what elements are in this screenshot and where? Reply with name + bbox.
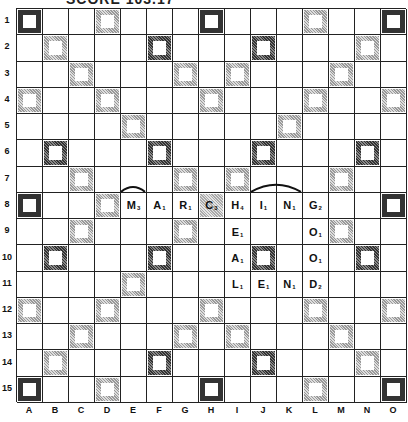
board-cell-N7[interactable]	[355, 167, 381, 193]
board-cell-J2[interactable]	[251, 35, 277, 61]
board-cell-I7[interactable]	[225, 167, 251, 193]
board-cell-I12[interactable]	[225, 298, 251, 324]
board-cell-L15[interactable]	[303, 377, 329, 403]
board-cell-C12[interactable]	[69, 298, 95, 324]
board-cell-H10[interactable]	[199, 245, 225, 271]
board-cell-M9[interactable]	[329, 219, 355, 245]
board-cell-I8[interactable]: H4	[225, 193, 251, 219]
board-cell-O1[interactable]	[381, 9, 407, 35]
board-cell-I6[interactable]	[225, 140, 251, 166]
board-cell-G6[interactable]	[173, 140, 199, 166]
board-cell-B3[interactable]	[43, 62, 69, 88]
board-cell-A14[interactable]	[17, 350, 43, 376]
board-cell-H6[interactable]	[199, 140, 225, 166]
board-cell-K3[interactable]	[277, 62, 303, 88]
board-cell-J8[interactable]: I1	[251, 193, 277, 219]
board-cell-C10[interactable]	[69, 245, 95, 271]
board-cell-F11[interactable]	[147, 272, 173, 298]
board-cell-C4[interactable]	[69, 88, 95, 114]
board-cell-B8[interactable]	[43, 193, 69, 219]
board-cell-A13[interactable]	[17, 324, 43, 350]
board-cell-K15[interactable]	[277, 377, 303, 403]
board-cell-O6[interactable]	[381, 140, 407, 166]
board-cell-O2[interactable]	[381, 35, 407, 61]
board-cell-G12[interactable]	[173, 298, 199, 324]
board-cell-H4[interactable]	[199, 88, 225, 114]
board-cell-C11[interactable]	[69, 272, 95, 298]
board-cell-N1[interactable]	[355, 9, 381, 35]
board-cell-B14[interactable]	[43, 350, 69, 376]
board-cell-I13[interactable]	[225, 324, 251, 350]
board-cell-B15[interactable]	[43, 377, 69, 403]
board-cell-F2[interactable]	[147, 35, 173, 61]
board-cell-J10[interactable]	[251, 245, 277, 271]
board-cell-O3[interactable]	[381, 62, 407, 88]
board-cell-K14[interactable]	[277, 350, 303, 376]
board-cell-J3[interactable]	[251, 62, 277, 88]
board-cell-H12[interactable]	[199, 298, 225, 324]
board-cell-G9[interactable]	[173, 219, 199, 245]
board-cell-B10[interactable]	[43, 245, 69, 271]
board-cell-M3[interactable]	[329, 62, 355, 88]
board-cell-H7[interactable]	[199, 167, 225, 193]
board-cell-F7[interactable]	[147, 167, 173, 193]
board-cell-L2[interactable]	[303, 35, 329, 61]
board-cell-A8[interactable]	[17, 193, 43, 219]
board-cell-M5[interactable]	[329, 114, 355, 140]
board-cell-N14[interactable]	[355, 350, 381, 376]
board-cell-H15[interactable]	[199, 377, 225, 403]
board-cell-E6[interactable]	[121, 140, 147, 166]
board-cell-A6[interactable]	[17, 140, 43, 166]
board-cell-E7[interactable]	[121, 167, 147, 193]
board-cell-N2[interactable]	[355, 35, 381, 61]
board-cell-C14[interactable]	[69, 350, 95, 376]
board-cell-M1[interactable]	[329, 9, 355, 35]
board-cell-M13[interactable]	[329, 324, 355, 350]
board-cell-B11[interactable]	[43, 272, 69, 298]
board-cell-F3[interactable]	[147, 62, 173, 88]
board-cell-H3[interactable]	[199, 62, 225, 88]
board-cell-G2[interactable]	[173, 35, 199, 61]
board-cell-G15[interactable]	[173, 377, 199, 403]
board-cell-E12[interactable]	[121, 298, 147, 324]
board-cell-O10[interactable]	[381, 245, 407, 271]
board-cell-N5[interactable]	[355, 114, 381, 140]
board-cell-O15[interactable]	[381, 377, 407, 403]
board-cell-M10[interactable]	[329, 245, 355, 271]
board-cell-O8[interactable]	[381, 193, 407, 219]
board-cell-J4[interactable]	[251, 88, 277, 114]
board-cell-O14[interactable]	[381, 350, 407, 376]
board-cell-F12[interactable]	[147, 298, 173, 324]
board-cell-L5[interactable]	[303, 114, 329, 140]
board-cell-G8[interactable]: R1	[173, 193, 199, 219]
board-cell-E5[interactable]	[121, 114, 147, 140]
board-cell-I11[interactable]: L1	[225, 272, 251, 298]
board-cell-J13[interactable]	[251, 324, 277, 350]
board-cell-G3[interactable]	[173, 62, 199, 88]
board-cell-A5[interactable]	[17, 114, 43, 140]
board-cell-D1[interactable]	[95, 9, 121, 35]
board-cell-E4[interactable]	[121, 88, 147, 114]
board-cell-O11[interactable]	[381, 272, 407, 298]
board-cell-I9[interactable]: E1	[225, 219, 251, 245]
board-cell-E11[interactable]	[121, 272, 147, 298]
board-cell-N3[interactable]	[355, 62, 381, 88]
board-cell-G7[interactable]	[173, 167, 199, 193]
board-cell-H2[interactable]	[199, 35, 225, 61]
board-cell-K10[interactable]	[277, 245, 303, 271]
board-cell-D8[interactable]	[95, 193, 121, 219]
board-cell-B6[interactable]	[43, 140, 69, 166]
board-cell-O5[interactable]	[381, 114, 407, 140]
board-cell-J9[interactable]	[251, 219, 277, 245]
board-cell-L10[interactable]: O1	[303, 245, 329, 271]
board-cell-H13[interactable]	[199, 324, 225, 350]
board-cell-L8[interactable]: G2	[303, 193, 329, 219]
board-cell-I5[interactable]	[225, 114, 251, 140]
board-cell-O9[interactable]	[381, 219, 407, 245]
board-cell-M8[interactable]	[329, 193, 355, 219]
board-cell-J14[interactable]	[251, 350, 277, 376]
board-cell-J5[interactable]	[251, 114, 277, 140]
board-cell-M15[interactable]	[329, 377, 355, 403]
board-cell-F14[interactable]	[147, 350, 173, 376]
board-cell-N10[interactable]	[355, 245, 381, 271]
